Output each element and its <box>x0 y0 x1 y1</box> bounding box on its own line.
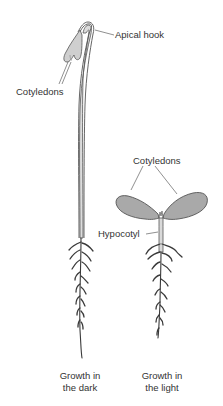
light-hypocotyl <box>159 218 163 252</box>
light-caption-line1: Growth in <box>132 370 192 382</box>
dark-caption-line1: Growth in <box>50 370 110 382</box>
dark-roots <box>69 238 93 358</box>
light-caption-line2: the light <box>132 382 192 394</box>
light-roots <box>146 244 182 338</box>
dark-caption: Growth in the dark <box>50 370 110 395</box>
apical-hook-label: Apical hook <box>115 29 164 40</box>
cotyledons-dark-label: Cotyledons <box>16 86 64 97</box>
light-cotyledon-right <box>163 192 207 219</box>
seedling-diagram <box>0 0 223 406</box>
cotyledons-light-label: Cotyledons <box>133 155 181 166</box>
light-cotyledon-left <box>116 196 159 220</box>
light-caption: Growth in the light <box>132 370 192 395</box>
hypocotyl-label: Hypocotyl <box>98 228 140 239</box>
dark-caption-line2: the dark <box>50 382 110 394</box>
dark-grown-seedling <box>64 22 94 358</box>
light-grown-seedling <box>116 192 207 338</box>
dark-cotyledons <box>64 30 82 62</box>
